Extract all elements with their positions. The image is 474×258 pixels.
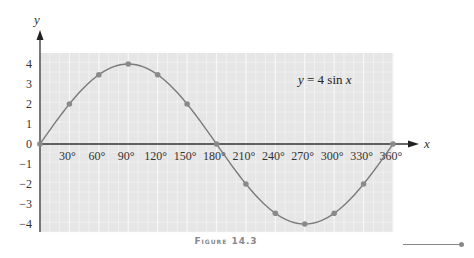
y-tick-label: 4	[26, 57, 32, 71]
data-point	[96, 72, 102, 78]
equation-var: x	[346, 72, 352, 87]
x-tick-label: 330°	[350, 149, 373, 163]
data-point	[302, 221, 308, 227]
x-tick-label: 150°	[174, 149, 197, 163]
y-tick-label: −2	[19, 177, 32, 191]
x-tick-label: 300°	[321, 149, 344, 163]
x-tick-label: 270°	[291, 149, 314, 163]
y-tick-labels: 43210−1−2−3−4	[19, 57, 32, 231]
x-axis-arrow-icon	[408, 141, 419, 148]
data-point	[273, 210, 279, 216]
x-axis-label: x	[423, 136, 430, 151]
y-tick-label: −3	[19, 197, 32, 211]
data-point	[155, 72, 161, 78]
y-axis-arrow-icon	[37, 30, 44, 40]
data-point	[390, 141, 396, 147]
x-tick-label: 60°	[88, 149, 105, 163]
equation-label: y = 4 sin x	[298, 72, 352, 88]
x-tick-label: 30°	[59, 149, 76, 163]
y-tick-label: −4	[19, 217, 32, 231]
y-tick-label: 0	[26, 137, 32, 151]
x-tick-label: 240°	[262, 149, 285, 163]
x-tick-label: 120°	[144, 149, 167, 163]
sine-chart: y x 43210−1−2−3−4 30°60°90°120°150°180°2…	[0, 0, 474, 258]
y-axis-label: y	[32, 12, 40, 27]
data-point	[67, 101, 73, 107]
y-tick-label: 2	[26, 97, 32, 111]
x-tick-label: 90°	[118, 149, 135, 163]
y-tick-label: 3	[26, 77, 32, 91]
y-tick-label: −1	[19, 157, 32, 171]
equation-middle: = 4 sin	[304, 72, 346, 87]
y-tick-label: 1	[26, 117, 32, 131]
data-point	[331, 210, 337, 216]
data-point	[184, 101, 190, 107]
decorative-line	[403, 244, 461, 245]
x-tick-label: 180°	[203, 149, 226, 163]
x-tick-label: 360°	[380, 149, 403, 163]
data-point	[37, 141, 43, 147]
data-point	[361, 181, 367, 187]
data-point	[125, 61, 131, 67]
figure-caption: Figure 14.3	[0, 236, 452, 246]
x-tick-label: 210°	[233, 149, 256, 163]
decorative-dot	[459, 242, 464, 247]
data-point	[243, 181, 249, 187]
data-point	[214, 141, 220, 147]
